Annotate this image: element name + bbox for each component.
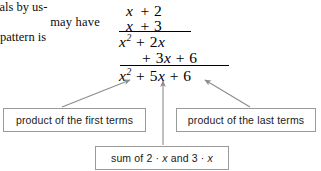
callout-product-of-first-terms: product of the first terms xyxy=(3,108,146,132)
partial2-operator-2: + xyxy=(176,49,185,66)
partial1-variable: x xyxy=(158,33,165,50)
partial2-constant: 6 xyxy=(189,49,197,66)
partial1-operator: + xyxy=(136,33,145,50)
product-constant: 6 xyxy=(183,67,191,84)
callout-sum-variable-2: x xyxy=(208,152,213,164)
body-text-line-3: pattern is xyxy=(0,30,106,45)
product-square-exponent: 2 xyxy=(126,66,131,77)
callout-sum-prefix: sum of 2 xyxy=(111,152,152,164)
body-text-line-1: ials by us- xyxy=(0,0,106,15)
figure-root: ials by us- may have pattern is x+ 2 x+ … xyxy=(0,0,321,171)
partial2-operator-1: + xyxy=(142,49,151,66)
partial2-coefficient: 3 xyxy=(156,49,164,66)
callout-sum-of-middle-terms: sum of 2 · x and 3 · x xyxy=(95,146,229,170)
callout-sum-variable-1: x xyxy=(162,152,167,164)
product-variable: x xyxy=(158,67,165,84)
callout-sum-middle: and 3 xyxy=(171,152,198,164)
body-text-column: ials by us- may have pattern is xyxy=(0,0,106,45)
callout-sum-dot-2: · xyxy=(201,152,205,164)
product-coefficient: 5 xyxy=(150,67,158,84)
partial1-coefficient: 2 xyxy=(150,33,158,50)
callout-sum-dot-1: · xyxy=(156,152,160,164)
callout-first-terms-label: product of the first terms xyxy=(16,114,133,126)
expression-final-product: x2 + 5x + 6 xyxy=(119,66,192,85)
body-text-line-2: may have xyxy=(0,15,106,30)
product-operator-2: + xyxy=(170,67,179,84)
partial2-variable: x xyxy=(164,49,171,66)
callout-product-of-last-terms: product of the last terms xyxy=(176,108,316,132)
partial1-square-exponent: 2 xyxy=(126,32,131,43)
product-operator-1: + xyxy=(136,67,145,84)
callout-last-terms-label: product of the last terms xyxy=(188,114,304,126)
arrow-last-terms xyxy=(205,80,250,107)
